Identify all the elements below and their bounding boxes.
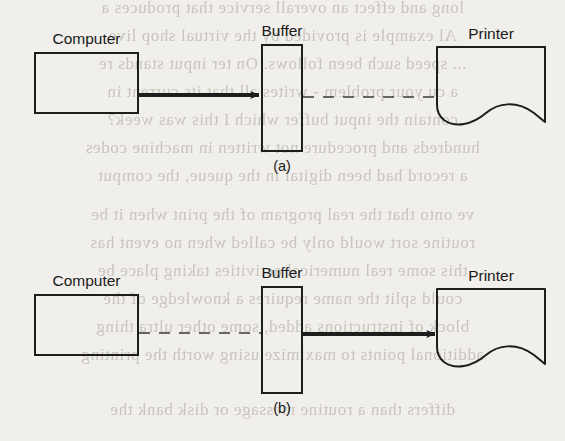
figure-diagrams: Computer Buffer Printer (a) Computer Buf…: [0, 0, 565, 441]
panel-b-printer-shape: [437, 289, 545, 366]
figure-vector-overlay: [0, 0, 565, 441]
panel-a-printer-shape: [437, 47, 545, 124]
scanned-figure-page: long and effect an overall service that …: [0, 0, 565, 441]
